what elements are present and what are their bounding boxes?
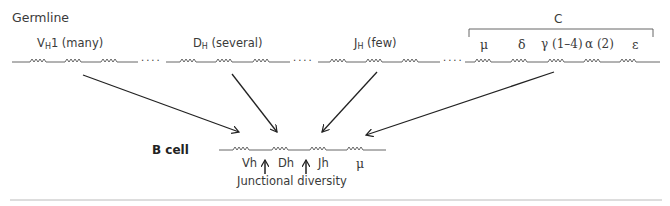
ellipsis-3: ....	[443, 52, 464, 63]
junctional-diversity-label: Junctional diversity	[237, 174, 347, 188]
gene-epsilon: ε	[632, 37, 638, 52]
gene-alpha: α (2)	[585, 37, 614, 51]
constant-label: C	[554, 12, 562, 26]
ellipsis-2: ....	[293, 52, 314, 63]
gene-gamma: γ (1–4)	[541, 37, 583, 51]
germline-title: Germline	[12, 10, 69, 25]
vh-label: VH1 (many)	[37, 36, 103, 51]
gene-mu: μ	[480, 37, 488, 52]
bcell-seg-jh: Jh	[318, 156, 329, 170]
bcell-seg-dh: Dh	[278, 156, 294, 170]
bcell-title: B cell	[152, 143, 189, 157]
gene-delta: δ	[518, 37, 526, 52]
bcell-seg-vh: Vh	[242, 156, 257, 170]
bcell-seg-mu: μ	[356, 156, 364, 171]
recombination-arrows	[83, 72, 554, 135]
constant-region-bracket	[469, 29, 653, 37]
ellipsis-1: ....	[141, 52, 162, 63]
bcell-dna-line	[219, 147, 386, 150]
dh-label: DH (several)	[193, 36, 262, 51]
germline-dna-line	[12, 59, 660, 62]
jh-label: JH (few)	[354, 36, 397, 51]
